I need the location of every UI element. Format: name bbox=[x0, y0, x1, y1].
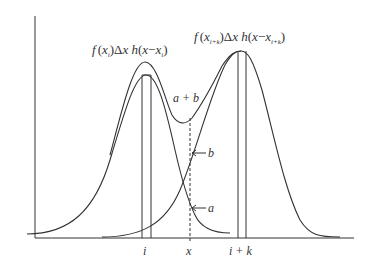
tick-label-i-plus-k: i + k bbox=[229, 244, 252, 258]
a-label: a bbox=[208, 201, 214, 215]
tick-label-i: i bbox=[143, 244, 146, 258]
right-kernel-curve bbox=[102, 51, 340, 237]
tick-label-x: x bbox=[185, 244, 192, 258]
left-kernel-label: f(xi)Δx h(x−xi) bbox=[92, 42, 167, 59]
left-kernel-curve bbox=[27, 75, 230, 234]
sum-label: a + b bbox=[173, 91, 199, 105]
kernel-density-diagram: f(xi)Δx h(x−xi) f(xi+k)Δx h(x−xi+k) a + … bbox=[0, 0, 379, 266]
right-kernel-label: f(xi+k)Δx h(x−xi+k) bbox=[194, 29, 285, 46]
b-label: b bbox=[208, 146, 214, 160]
